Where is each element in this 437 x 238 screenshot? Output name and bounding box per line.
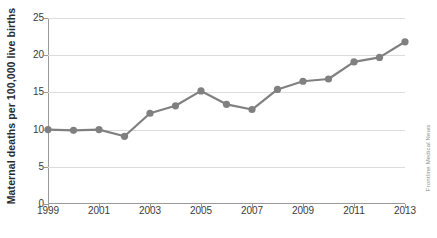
- data-point: [401, 38, 408, 45]
- y-tick-label: 20: [22, 50, 44, 60]
- x-tick-label: 2001: [88, 206, 110, 216]
- data-point: [95, 126, 102, 133]
- data-point: [70, 127, 77, 134]
- x-tick-label: 2005: [190, 206, 212, 216]
- data-point: [325, 75, 332, 82]
- watermark: Frontline Medical News: [421, 108, 435, 208]
- y-tick-label: 15: [22, 87, 44, 97]
- data-point: [121, 133, 128, 140]
- data-point: [274, 86, 281, 93]
- data-series: [48, 18, 405, 204]
- line-chart: Maternal deaths per 100,000 live births …: [0, 0, 437, 238]
- data-point: [146, 110, 153, 117]
- x-axis-tick-labels: 19992001200320052007200920112013: [48, 206, 405, 226]
- data-point: [299, 78, 306, 85]
- data-point: [248, 106, 255, 113]
- x-tick-label: 2003: [139, 206, 161, 216]
- data-point: [44, 126, 51, 133]
- y-tick-label: 25: [22, 13, 44, 23]
- x-tick-label: 2013: [394, 206, 416, 216]
- y-tick-label: 10: [22, 125, 44, 135]
- data-point: [172, 102, 179, 109]
- watermark-text: Frontline Medical News: [425, 125, 431, 192]
- data-point: [223, 101, 230, 108]
- y-axis-tick-labels: 0510152025: [20, 0, 44, 238]
- data-point: [350, 58, 357, 65]
- x-tick-label: 1999: [37, 206, 59, 216]
- series-line: [48, 42, 405, 136]
- y-axis-title: Maternal deaths per 100,000 live births: [0, 0, 22, 212]
- x-tick-label: 2011: [343, 206, 365, 216]
- x-tick-label: 2009: [292, 206, 314, 216]
- y-tick-label: 5: [22, 162, 44, 172]
- plot-area: [48, 18, 405, 204]
- x-tick-label: 2007: [241, 206, 263, 216]
- data-point: [197, 87, 204, 94]
- data-point: [376, 54, 383, 61]
- y-axis-title-text: Maternal deaths per 100,000 live births: [5, 8, 17, 204]
